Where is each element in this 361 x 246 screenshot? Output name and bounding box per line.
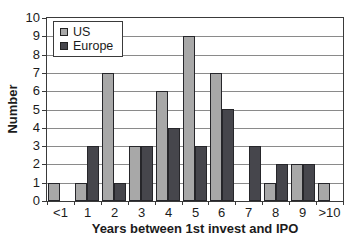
chart-figure: Number US Europe 012345678910 <112345678… xyxy=(0,0,361,246)
bar-europe-8 xyxy=(276,164,288,201)
y-tick-label-10: 10 xyxy=(0,11,40,25)
y-tick-label-4: 4 xyxy=(0,121,40,135)
x-tick-label-1: 1 xyxy=(74,205,101,220)
bar-europe-1 xyxy=(87,146,99,201)
y-tick-mark-9 xyxy=(42,36,46,37)
y-tick-mark-6 xyxy=(42,91,46,92)
europe-swatch-icon xyxy=(60,42,68,50)
y-tick-label-7: 7 xyxy=(0,66,40,80)
y-tick-label-1: 1 xyxy=(0,176,40,190)
bar-us->10 xyxy=(318,183,330,201)
x-tick-label-9: 9 xyxy=(289,205,316,220)
bar-us-<1 xyxy=(48,183,60,201)
bar-us-3 xyxy=(129,146,141,201)
y-tick-label-6: 6 xyxy=(0,84,40,98)
bar-europe-2 xyxy=(114,183,126,201)
bar-us-6 xyxy=(210,73,222,201)
x-axis-title: Years between 1st invest and IPO xyxy=(46,221,344,236)
bar-europe-9 xyxy=(303,164,315,201)
bar-us-5 xyxy=(183,36,195,201)
legend-item-us: US xyxy=(60,25,113,39)
y-tick-mark-8 xyxy=(42,55,46,56)
plot-area: US Europe xyxy=(46,17,344,202)
y-tick-mark-7 xyxy=(42,73,46,74)
y-tick-label-5: 5 xyxy=(0,103,40,117)
y-tick-mark-10 xyxy=(42,18,46,19)
y-tick-mark-5 xyxy=(42,110,46,111)
x-tick-label-5: 5 xyxy=(182,205,209,220)
bar-europe-7 xyxy=(249,146,261,201)
bar-us-9 xyxy=(291,164,303,201)
y-tick-mark-4 xyxy=(42,128,46,129)
gridline-4 xyxy=(47,128,343,129)
x-tick-label-6: 6 xyxy=(208,205,235,220)
us-swatch-icon xyxy=(60,28,68,36)
bar-us-2 xyxy=(102,73,114,201)
x-tick-label->10: >10 xyxy=(316,205,343,220)
x-tick-label-3: 3 xyxy=(128,205,155,220)
bar-us-4 xyxy=(156,91,168,201)
y-tick-label-3: 3 xyxy=(0,139,40,153)
x-tick-label-8: 8 xyxy=(262,205,289,220)
legend: US Europe xyxy=(53,21,123,57)
y-tick-label-8: 8 xyxy=(0,48,40,62)
bar-us-1 xyxy=(75,183,87,201)
gridline-7 xyxy=(47,73,343,74)
legend-item-europe: Europe xyxy=(60,39,113,53)
x-tick-label-4: 4 xyxy=(155,205,182,220)
bar-europe-3 xyxy=(141,146,153,201)
legend-label-us: US xyxy=(73,25,90,39)
bar-europe-5 xyxy=(195,146,207,201)
bar-europe-4 xyxy=(168,128,180,201)
gridline-6 xyxy=(47,91,343,92)
gridline-5 xyxy=(47,110,343,111)
y-tick-label-0: 0 xyxy=(0,194,40,208)
x-tick-label-7: 7 xyxy=(235,205,262,220)
bar-us-8 xyxy=(264,183,276,201)
y-tick-mark-1 xyxy=(42,183,46,184)
bar-europe-6 xyxy=(222,109,234,201)
legend-label-europe: Europe xyxy=(73,39,113,53)
y-tick-mark-2 xyxy=(42,164,46,165)
y-tick-label-2: 2 xyxy=(0,157,40,171)
y-tick-label-9: 9 xyxy=(0,29,40,43)
x-tick-label-<1: <1 xyxy=(47,205,74,220)
y-tick-mark-3 xyxy=(42,146,46,147)
x-tick-mark-11 xyxy=(343,201,344,205)
x-tick-label-2: 2 xyxy=(101,205,128,220)
y-tick-mark-0 xyxy=(42,201,46,202)
